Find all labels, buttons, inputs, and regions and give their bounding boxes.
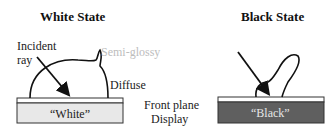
black-incident-ray [238,52,268,93]
black-specular-lobe [256,55,299,97]
semi-glossy-label: Semi-glossy [101,45,160,59]
white-panel-label: “White” [50,107,90,121]
front-plane-label: Front plane [144,98,199,112]
white-diffuse-lobe [30,50,108,98]
incident-ray-label-line1: Incident [17,39,56,53]
white-state-title: White State [40,9,105,25]
display-label: Display [151,112,188,126]
black-state-title: Black State [241,9,304,25]
diffuse-label: Diffuse [110,78,146,92]
white-incident-ray [37,57,68,94]
black-panel-label: “Black” [251,106,290,120]
incident-ray-label-line2: ray [17,53,32,67]
